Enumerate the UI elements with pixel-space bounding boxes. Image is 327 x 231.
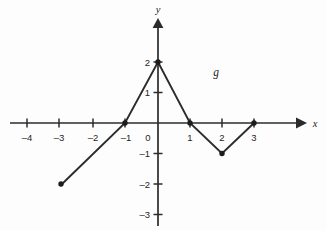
- point-marker: [58, 181, 63, 186]
- y-tick-label-1: 1: [145, 87, 150, 98]
- curve-label-g: g: [213, 66, 219, 79]
- x-axis-label: x: [312, 118, 318, 129]
- point-marker: [187, 120, 192, 125]
- point-marker: [122, 120, 127, 125]
- y-tick-label-2: 2: [145, 57, 150, 68]
- y-tick-label-minus1: –1: [139, 148, 150, 159]
- y-tick-label-minus3: –3: [139, 209, 150, 220]
- x-tick-label-minus4: –4: [22, 132, 33, 143]
- x-tick-label-minus3: –3: [54, 132, 65, 143]
- x-tick-label-2: 2: [219, 132, 224, 143]
- x-axis-arrow: [296, 118, 307, 129]
- point-marker: [251, 120, 256, 125]
- x-tick-label-minus1: –1: [121, 132, 132, 143]
- y-tick-label-minus2: –2: [139, 179, 150, 190]
- y-axis-arrow: [153, 18, 164, 28]
- x-tick-label-3: 3: [251, 132, 256, 143]
- x-tick-label-minus2: –2: [88, 132, 99, 143]
- coordinate-plane: –4 –3 –2 –1 0 1 2 3 2 1 –1 –2 –3 x y g: [0, 0, 327, 231]
- graph-figure: –4 –3 –2 –1 0 1 2 3 2 1 –1 –2 –3 x y g: [0, 0, 327, 231]
- x-tick-label-1: 1: [187, 132, 192, 143]
- point-marker: [219, 151, 224, 156]
- point-marker: [155, 59, 160, 64]
- x-tick-label-0: 0: [145, 132, 150, 143]
- y-axis-label: y: [155, 4, 161, 15]
